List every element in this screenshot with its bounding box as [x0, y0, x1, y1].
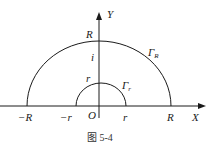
x-axis-arrow-icon	[198, 103, 206, 109]
label-i: i	[91, 51, 94, 63]
label-top-r: r	[86, 72, 91, 84]
origin-label: O	[88, 109, 96, 121]
label-gamma-r: Γr	[121, 79, 131, 93]
y-axis-label: Y	[107, 8, 115, 20]
label-neg-R: −R	[18, 111, 32, 123]
figure-caption: 图 5-4	[87, 132, 113, 143]
label-gamma-R: ΓR	[147, 46, 159, 60]
y-axis-arrow-icon	[96, 12, 102, 20]
label-neg-r: −r	[60, 111, 72, 123]
label-top-R: R	[85, 28, 93, 40]
contour-diagram: Y X O −R −r r R R i r ΓR Γr 图 5-4	[0, 0, 211, 147]
label-pos-r: r	[123, 111, 128, 123]
x-axis-label: X	[191, 111, 200, 123]
label-pos-R: R	[166, 111, 174, 123]
small-arc-gamma-r	[76, 83, 126, 106]
